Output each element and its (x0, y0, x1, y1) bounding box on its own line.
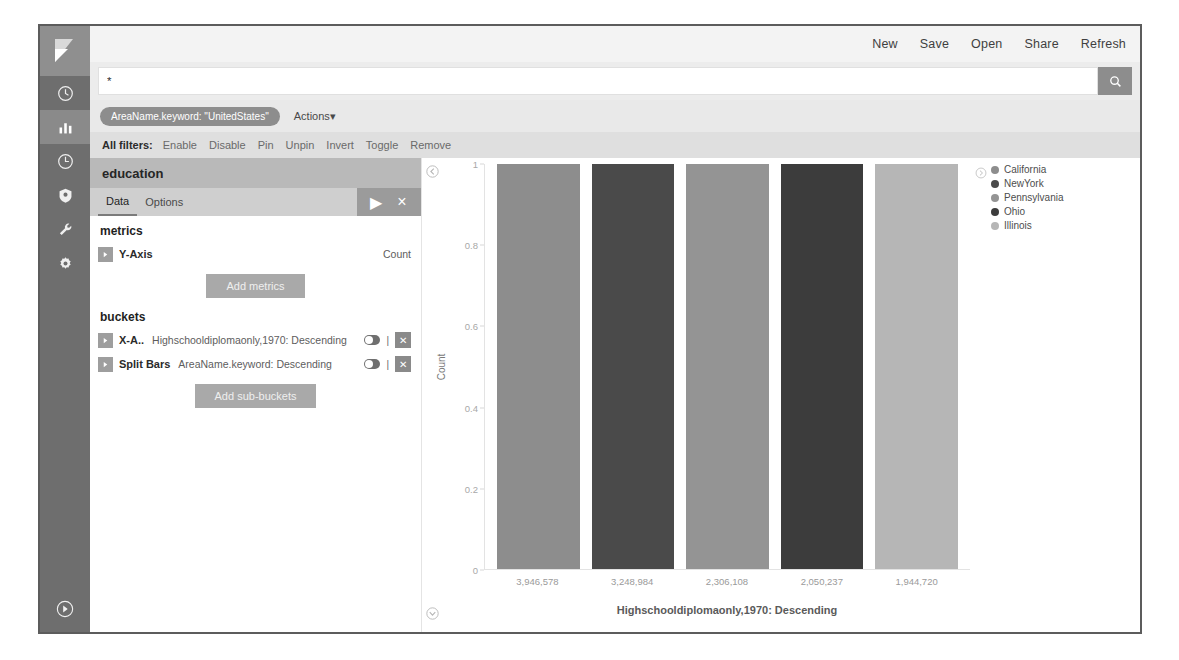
x-tick-label: 3,248,984 (591, 576, 674, 592)
legend-color-dot (991, 180, 999, 188)
y-axis: Count 1 0.8 0.6 0.4 0.2 0 (450, 164, 484, 570)
filter-pill-areaname[interactable]: AreaName.keyword: "UnitedStates" (100, 107, 280, 126)
expand-caret-icon[interactable] (98, 247, 113, 262)
bar-series-illinois[interactable] (875, 164, 958, 569)
metrics-heading: metrics (90, 216, 421, 242)
bucket-drag-handle-icon[interactable]: | (386, 359, 389, 370)
tab-data[interactable]: Data (98, 188, 137, 216)
chart-plot: Count 1 0.8 0.6 0.4 0.2 0 (450, 164, 970, 570)
all-filters-disable[interactable]: Disable (209, 139, 246, 151)
management-gear-icon[interactable] (40, 246, 90, 280)
all-filters-label: All filters: (102, 139, 153, 151)
add-metrics-button[interactable]: Add metrics (206, 274, 304, 298)
timelion-icon[interactable] (40, 178, 90, 212)
page-title: education (90, 158, 421, 188)
all-filters-unpin[interactable]: Unpin (286, 139, 315, 151)
editor-tab-actions: ▶ × (357, 188, 421, 216)
x-tick-label: 2,050,237 (780, 576, 863, 592)
search-icon (1109, 75, 1122, 88)
filter-actions-menu[interactable]: Actions▾ (294, 110, 336, 123)
bucket-value-x-axis: Highschooldiplomaonly,1970: Descending (152, 334, 364, 347)
all-filters-pin[interactable]: Pin (258, 139, 274, 151)
dashboard-icon[interactable] (40, 144, 90, 178)
chevron-down-icon: ▾ (330, 110, 336, 122)
legend-color-dot (991, 208, 999, 216)
topnav-open[interactable]: Open (971, 37, 1002, 51)
vis-editor-panel: education Data Options ▶ × metrics Y-Axi… (90, 158, 422, 632)
expand-caret-icon[interactable] (98, 333, 113, 348)
x-tick-label: 2,306,108 (686, 576, 769, 592)
apply-changes-play-icon[interactable]: ▶ (363, 188, 389, 216)
bucket-remove-button[interactable]: ✕ (395, 356, 411, 372)
y-tick-label: 0 (473, 565, 478, 576)
y-tick-label: 0.2 (465, 483, 478, 494)
app-window: New Save Open Share Refresh AreaName.key… (38, 24, 1142, 634)
bucket-drag-handle-icon[interactable]: | (386, 335, 389, 346)
dev-tools-wrench-icon[interactable] (40, 212, 90, 246)
all-filters-enable[interactable]: Enable (163, 139, 197, 151)
app-body: education Data Options ▶ × metrics Y-Axi… (90, 158, 1140, 632)
legend-toggle-icon[interactable] (975, 165, 987, 183)
screenshot-root: New Save Open Share Refresh AreaName.key… (0, 0, 1179, 660)
top-nav: New Save Open Share Refresh (90, 26, 1140, 62)
y-axis-title: Count (436, 354, 447, 381)
legend-label: Illinois (1004, 220, 1032, 231)
x-axis-tick-labels: 3,946,578 3,248,984 2,306,108 2,050,237 … (484, 576, 970, 592)
discover-icon[interactable] (40, 76, 90, 110)
legend-item-illinois[interactable]: Illinois (991, 220, 1063, 231)
topnav-refresh[interactable]: Refresh (1081, 37, 1126, 51)
bucket-value-split-bars: AreaName.keyword: Descending (178, 358, 364, 371)
legend-label: NewYork (1004, 178, 1044, 189)
legend-color-dot (991, 166, 999, 174)
buckets-heading: buckets (90, 302, 421, 328)
legend-color-dot (991, 194, 999, 202)
bar-series-california[interactable] (497, 164, 580, 569)
bucket-row-x-axis[interactable]: X-A.. Highschooldiplomaonly,1970: Descen… (90, 328, 421, 352)
bucket-controls: | ✕ (364, 332, 411, 348)
add-sub-buckets-button[interactable]: Add sub-buckets (195, 384, 317, 408)
collapse-bottom-icon[interactable] (426, 606, 439, 624)
all-filters-remove[interactable]: Remove (410, 139, 451, 151)
legend-label: Pennsylvania (1004, 192, 1063, 203)
collapse-arrow-icon[interactable] (40, 600, 90, 618)
metric-row-y-axis[interactable]: Y-Axis Count (90, 242, 421, 266)
search-input[interactable] (98, 67, 1098, 95)
tab-options[interactable]: Options (137, 189, 191, 215)
all-filters-bar: All filters: Enable Disable Pin Unpin In… (90, 132, 1140, 158)
legend-item-newyork[interactable]: NewYork (991, 178, 1063, 189)
bar-series-ohio[interactable] (781, 164, 864, 569)
query-bar (90, 62, 1140, 100)
y-tick-label: 0.6 (465, 321, 478, 332)
bar-series-newyork[interactable] (592, 164, 675, 569)
bucket-enable-toggle[interactable] (364, 335, 380, 345)
bucket-row-split-bars[interactable]: Split Bars AreaName.keyword: Descending … (90, 352, 421, 376)
expand-caret-icon[interactable] (98, 357, 113, 372)
search-button[interactable] (1098, 67, 1132, 95)
legend-item-ohio[interactable]: Ohio (991, 206, 1063, 217)
topnav-share[interactable]: Share (1024, 37, 1058, 51)
bar-series-pennsylvania[interactable] (686, 164, 769, 569)
legend-label: Ohio (1004, 206, 1025, 217)
topnav-new[interactable]: New (872, 37, 898, 51)
x-axis-title: Highschooldiplomaonly,1970: Descending (484, 604, 970, 616)
collapse-editor-icon[interactable] (426, 164, 439, 182)
discard-changes-close-icon[interactable]: × (389, 188, 415, 216)
legend-item-pennsylvania[interactable]: Pennsylvania (991, 192, 1063, 203)
visualization-area: Count 1 0.8 0.6 0.4 0.2 0 (422, 158, 1140, 632)
all-filters-invert[interactable]: Invert (326, 139, 354, 151)
editor-tab-bar: Data Options ▶ × (90, 188, 421, 216)
global-nav-rail (40, 26, 90, 632)
y-tick-label: 0.8 (465, 240, 478, 251)
filter-bar: AreaName.keyword: "UnitedStates" Actions… (90, 100, 1140, 132)
kibana-logo[interactable] (40, 26, 90, 76)
visualize-icon[interactable] (40, 110, 90, 144)
chart-legend: California NewYork Pennsylvania Ohi (975, 164, 1130, 231)
filter-actions-label: Actions (294, 110, 330, 122)
all-filters-toggle[interactable]: Toggle (366, 139, 398, 151)
legend-item-california[interactable]: California (991, 164, 1063, 175)
topnav-save[interactable]: Save (920, 37, 949, 51)
bucket-remove-button[interactable]: ✕ (395, 332, 411, 348)
bucket-label-split-bars: Split Bars (119, 358, 170, 370)
y-tick-label: 0.4 (465, 402, 478, 413)
bucket-enable-toggle[interactable] (364, 359, 380, 369)
